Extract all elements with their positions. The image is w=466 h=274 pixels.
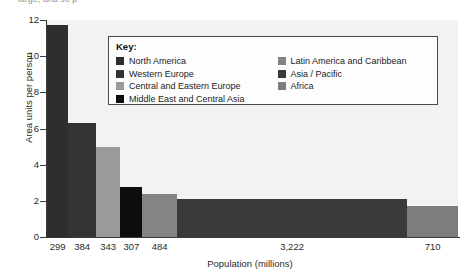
y-axis-tick-label: 12 [17,14,39,25]
y-axis-tick-label: 4 [17,159,39,170]
x-axis-line [46,237,460,238]
legend: Key: North AmericaWestern EuropeCentral … [108,36,438,105]
bar [120,187,142,237]
x-axis-tick-label: 343 [100,241,116,252]
legend-item-label: Middle East and Central Asia [129,94,245,104]
y-axis-tick [40,129,47,130]
legend-item-label: Central and Eastern Europe [129,81,241,91]
y-axis-tick-label: 8 [17,86,39,97]
bar [96,147,121,237]
bar [142,194,177,237]
legend-swatch-icon [116,95,124,103]
y-axis-tick-label: 2 [17,195,39,206]
bar [177,199,407,237]
legend-item: Western Europe [116,68,278,81]
legend-column-right: Latin America and CaribbeanAsia / Pacifi… [278,55,438,105]
y-axis-tick-label: 10 [17,50,39,61]
legend-item-label: Latin America and Caribbean [291,56,407,66]
legend-item-label: Africa [291,81,314,91]
y-axis-tick [40,201,47,202]
bar [407,206,458,237]
legend-item: Middle East and Central Asia [116,93,278,106]
y-axis-tick [40,92,47,93]
legend-item: Latin America and Caribbean [278,55,438,68]
y-axis-tick [40,165,47,166]
y-axis-tick [40,237,47,238]
legend-item: Africa [278,80,438,93]
legend-swatch-icon [116,70,124,78]
legend-column-left: North AmericaWestern EuropeCentral and E… [116,55,278,105]
legend-item-label: Western Europe [129,69,194,79]
x-axis-tick-label: 307 [123,241,139,252]
legend-item-label: North America [129,56,186,66]
x-axis-tick-label: 384 [74,241,90,252]
legend-item: North America [116,55,278,68]
y-axis-tick [40,56,47,57]
bar [47,25,68,237]
x-axis-title: Population (millions) [40,258,460,269]
legend-swatch-icon [278,82,286,90]
y-axis-title: Area units per person [23,23,34,173]
x-axis-tick-label: 484 [152,241,168,252]
legend-item-label: Asia / Pacific [291,69,343,79]
bar [68,123,95,237]
x-axis-tick-label: 3,222 [280,241,304,252]
y-axis-tick-label: 0 [17,231,39,242]
chart-canvas: large, and so p Area units per person Po… [0,0,466,274]
x-axis-tick-label: 710 [425,241,441,252]
legend-swatch-icon [278,70,286,78]
y-axis-tick-label: 6 [17,123,39,134]
x-axis-tick-label: 299 [50,241,66,252]
legend-swatch-icon [116,57,124,65]
y-axis-tick [40,20,47,21]
clipped-top-caption: large, and so p [18,0,218,6]
legend-item: Central and Eastern Europe [116,80,278,93]
legend-item: Asia / Pacific [278,68,438,81]
legend-swatch-icon [116,82,124,90]
legend-columns: North AmericaWestern EuropeCentral and E… [116,55,437,105]
legend-title: Key: [116,41,437,52]
legend-swatch-icon [278,57,286,65]
